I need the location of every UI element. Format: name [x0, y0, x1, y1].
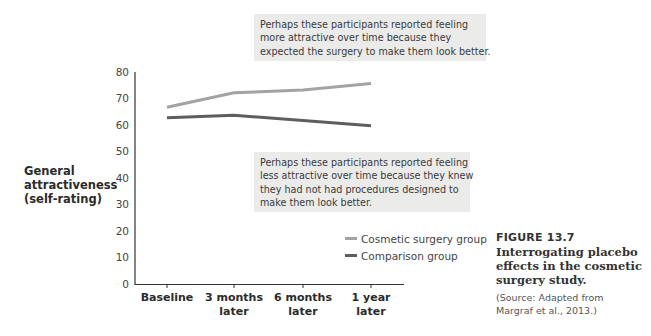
figure-number: FIGURE 13.7 — [496, 231, 646, 244]
y-tick-60: 60 — [99, 119, 129, 131]
legend-item-cosmetic: Cosmetic surgery group — [345, 230, 487, 247]
cosmetic-surgery-line — [167, 84, 371, 108]
y-tick-80: 80 — [99, 66, 129, 78]
figure-title: Interrogating placebo effects in the cos… — [496, 245, 646, 287]
y-tick-50: 50 — [99, 145, 129, 157]
legend-swatch-comparison — [345, 254, 357, 257]
legend-item-comparison: Comparison group — [345, 247, 487, 264]
figure-caption: FIGURE 13.7 Interrogating placebo effect… — [496, 231, 646, 317]
legend: Cosmetic surgery group Comparison group — [345, 230, 487, 264]
comparison-line — [167, 115, 371, 126]
y-tick-70: 70 — [99, 92, 129, 104]
y-tick-40: 40 — [99, 172, 129, 184]
y-tick-0: 0 — [99, 278, 129, 290]
legend-swatch-cosmetic — [345, 237, 357, 240]
legend-label: Cosmetic surgery group — [361, 233, 487, 245]
x-tick-3-months: 3 months later — [194, 291, 274, 319]
y-tick-20: 20 — [99, 225, 129, 237]
y-tick-30: 30 — [99, 198, 129, 210]
legend-label: Comparison group — [361, 250, 458, 262]
x-tick-1-year: 1 year later — [331, 291, 411, 319]
y-tick-10: 10 — [99, 251, 129, 263]
figure-source: (Source: Adapted from Margraf et al., 20… — [496, 291, 646, 317]
